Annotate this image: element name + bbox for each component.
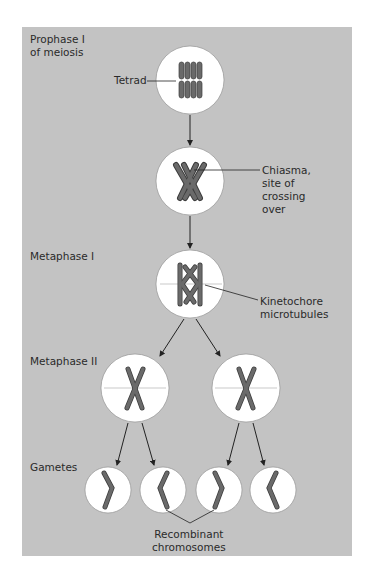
label-tetrad: Tetrad	[114, 74, 147, 87]
cell-chiasma	[156, 147, 260, 215]
label-metaphase-2: Metaphase II	[30, 355, 97, 368]
label-recombinant: Recombinant chromosomes	[152, 528, 226, 554]
label-kinetochore: Kinetochore microtubules	[260, 295, 328, 321]
meiosis-diagram	[0, 0, 370, 570]
label-metaphase-1: Metaphase I	[30, 250, 94, 263]
label-chiasma: Chiasma, site of crossing over	[262, 164, 311, 216]
cell-tetrad	[147, 46, 224, 114]
gametes	[85, 467, 296, 523]
cell-metaphase-1	[156, 250, 258, 318]
label-gametes: Gametes	[30, 461, 77, 474]
cell-metaphase-2-left	[101, 354, 169, 422]
label-prophase: Prophase I of meiosis	[30, 33, 85, 59]
cell-metaphase-2-right	[212, 354, 280, 422]
